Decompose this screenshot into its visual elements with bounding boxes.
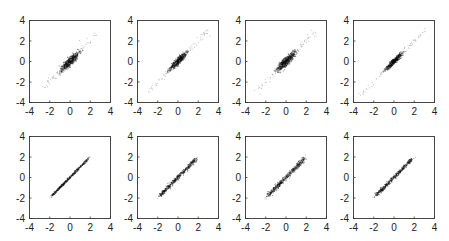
scatter-panel-row2-col4: -4-2024-4-2024 bbox=[340, 131, 438, 233]
x-axis: -4-2024 bbox=[349, 101, 438, 118]
y-tick-label: -2 bbox=[16, 77, 25, 88]
x-tick-label: 0 bbox=[175, 106, 181, 117]
scatter-points bbox=[49, 157, 90, 199]
y-tick-label: 0 bbox=[343, 56, 349, 67]
x-tick-label: -2 bbox=[369, 106, 378, 117]
scatter-points bbox=[158, 157, 198, 199]
x-tick-label: -2 bbox=[45, 106, 54, 117]
x-tick-label: -4 bbox=[349, 106, 358, 117]
x-axis: -4-2024 bbox=[25, 101, 114, 118]
y-tick-label: 4 bbox=[343, 131, 349, 142]
scatter-points bbox=[148, 30, 210, 93]
y-tick-label: -2 bbox=[232, 193, 241, 204]
x-tick-label: 0 bbox=[283, 106, 289, 117]
x-tick-label: 0 bbox=[67, 222, 73, 233]
scatter-points bbox=[254, 30, 317, 95]
x-tick-label: 4 bbox=[432, 222, 438, 233]
x-axis: -4-2024 bbox=[25, 217, 114, 234]
y-tick-label: -2 bbox=[340, 77, 349, 88]
y-tick-label: -4 bbox=[232, 97, 241, 108]
x-axis: -4-2024 bbox=[241, 101, 330, 118]
y-tick-label: -4 bbox=[340, 97, 349, 108]
x-tick-label: 0 bbox=[67, 106, 73, 117]
scatter-points bbox=[359, 28, 426, 95]
scatter-panel-row2-col1: -4-2024-4-2024 bbox=[16, 131, 114, 233]
x-tick-label: 4 bbox=[216, 106, 222, 117]
x-tick-label: -4 bbox=[241, 106, 250, 117]
y-tick-label: 2 bbox=[19, 152, 25, 163]
x-tick-label: -2 bbox=[261, 222, 270, 233]
x-tick-label: -2 bbox=[369, 222, 378, 233]
x-tick-label: 2 bbox=[87, 222, 93, 233]
y-tick-label: 4 bbox=[127, 15, 133, 26]
x-tick-label: 4 bbox=[324, 222, 330, 233]
scatter-panel-row1-col4: -4-2024-4-2024 bbox=[340, 15, 438, 117]
x-tick-label: -2 bbox=[261, 106, 270, 117]
x-axis: -4-2024 bbox=[349, 217, 438, 234]
y-tick-label: 4 bbox=[19, 15, 25, 26]
x-tick-label: 2 bbox=[411, 222, 417, 233]
x-tick-label: -4 bbox=[25, 106, 34, 117]
y-tick-label: 2 bbox=[127, 152, 133, 163]
y-tick-label: 0 bbox=[235, 172, 241, 183]
x-tick-label: -4 bbox=[133, 106, 142, 117]
x-tick-label: 4 bbox=[108, 222, 114, 233]
axes-frame bbox=[138, 137, 219, 219]
y-tick-label: 4 bbox=[343, 15, 349, 26]
scatter-points bbox=[42, 33, 97, 88]
y-tick-label: -4 bbox=[16, 97, 25, 108]
x-tick-label: -2 bbox=[45, 222, 54, 233]
x-tick-label: -4 bbox=[25, 222, 34, 233]
y-tick-label: -4 bbox=[232, 213, 241, 224]
y-tick-label: 2 bbox=[343, 36, 349, 47]
y-tick-label: 0 bbox=[19, 56, 25, 67]
y-tick-label: -4 bbox=[16, 213, 25, 224]
x-tick-label: 0 bbox=[283, 222, 289, 233]
x-tick-label: 2 bbox=[87, 106, 93, 117]
x-tick-label: 0 bbox=[391, 222, 397, 233]
x-tick-label: -4 bbox=[133, 222, 142, 233]
x-axis: -4-2024 bbox=[241, 217, 330, 234]
x-tick-label: -4 bbox=[241, 222, 250, 233]
y-tick-label: -4 bbox=[124, 213, 133, 224]
x-tick-label: 2 bbox=[411, 106, 417, 117]
scatter-points bbox=[265, 154, 307, 200]
x-tick-label: -4 bbox=[349, 222, 358, 233]
scatter-grid-figure: -4-2024-4-2024-4-2024-4-2024-4-2024-4-20… bbox=[0, 0, 449, 241]
scatter-panel-row2-col3: -4-2024-4-2024 bbox=[232, 131, 330, 233]
y-tick-label: -4 bbox=[340, 213, 349, 224]
x-tick-label: 2 bbox=[303, 106, 309, 117]
y-tick-label: 0 bbox=[343, 172, 349, 183]
x-tick-label: 4 bbox=[324, 106, 330, 117]
x-tick-label: -2 bbox=[153, 106, 162, 117]
x-tick-label: 2 bbox=[195, 106, 201, 117]
x-tick-label: 4 bbox=[216, 222, 222, 233]
y-tick-label: -2 bbox=[16, 193, 25, 204]
x-tick-label: -2 bbox=[153, 222, 162, 233]
y-tick-label: 0 bbox=[127, 172, 133, 183]
x-tick-label: 4 bbox=[432, 106, 438, 117]
x-tick-label: 2 bbox=[303, 222, 309, 233]
y-tick-label: 2 bbox=[235, 36, 241, 47]
y-tick-label: 0 bbox=[127, 56, 133, 67]
x-tick-label: 4 bbox=[108, 106, 114, 117]
y-tick-label: 4 bbox=[127, 131, 133, 142]
y-tick-label: 4 bbox=[19, 131, 25, 142]
x-axis: -4-2024 bbox=[133, 101, 222, 118]
scatter-panel-row1-col1: -4-2024-4-2024 bbox=[16, 15, 114, 117]
y-tick-label: 0 bbox=[19, 172, 25, 183]
x-axis: -4-2024 bbox=[133, 217, 222, 234]
y-tick-label: -2 bbox=[124, 193, 133, 204]
scatter-panel-row1-col2: -4-2024-4-2024 bbox=[124, 15, 222, 117]
scatter-panel-row2-col2: -4-2024-4-2024 bbox=[124, 131, 222, 233]
y-tick-label: -4 bbox=[124, 97, 133, 108]
scatter-panel-row1-col3: -4-2024-4-2024 bbox=[232, 15, 330, 117]
y-tick-label: 2 bbox=[127, 36, 133, 47]
y-tick-label: -2 bbox=[124, 77, 133, 88]
y-tick-label: 2 bbox=[343, 152, 349, 163]
y-tick-label: 4 bbox=[235, 131, 241, 142]
scatter-points bbox=[372, 157, 416, 198]
y-tick-label: 2 bbox=[235, 152, 241, 163]
x-tick-label: 0 bbox=[175, 222, 181, 233]
y-tick-label: 0 bbox=[235, 56, 241, 67]
